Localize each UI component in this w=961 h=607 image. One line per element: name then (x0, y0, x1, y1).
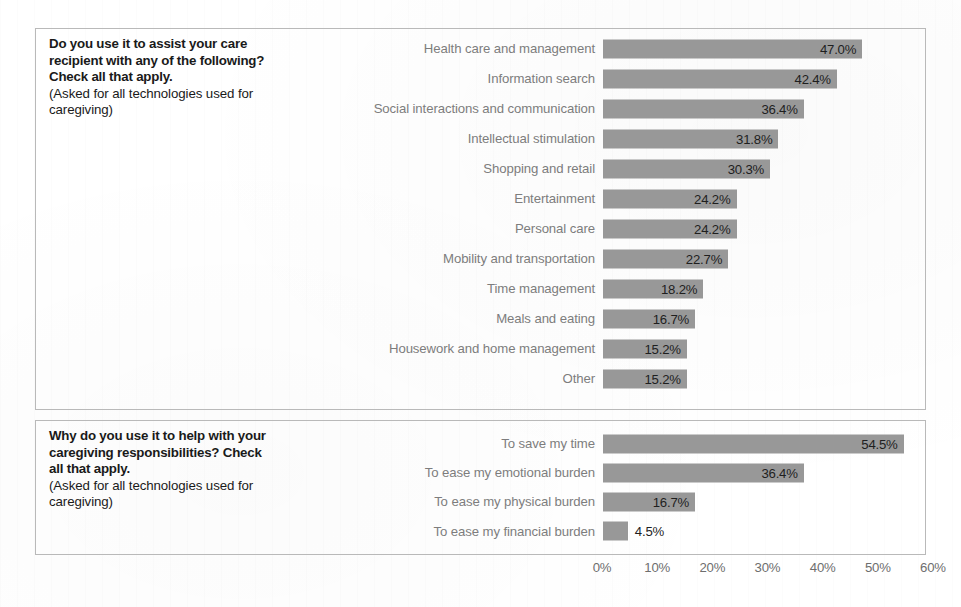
bar (603, 434, 904, 453)
bar-track: 36.4% (603, 458, 925, 487)
bar-track: 47.0% (603, 34, 925, 64)
bar-track: 36.4% (603, 94, 925, 124)
category-label: Intellectual stimulation (275, 124, 595, 154)
category-label: To ease my physical burden (275, 487, 595, 516)
category-label: Meals and eating (275, 304, 595, 334)
bar-value-label: 4.5% (635, 524, 664, 539)
reasons-bar-chart: To save my time54.5%To ease my emotional… (36, 421, 925, 554)
bar-value-label: 24.2% (694, 192, 730, 207)
category-label: To ease my emotional burden (275, 458, 595, 487)
x-axis-tick-label: 20% (699, 560, 725, 575)
x-axis-tick-label: 30% (755, 560, 781, 575)
bar-value-label: 24.2% (694, 222, 730, 237)
bar-value-label: 54.5% (861, 436, 897, 451)
category-label: To save my time (275, 429, 595, 458)
bar-track: 42.4% (603, 64, 925, 94)
bar-track: 4.5% (603, 517, 925, 546)
category-label: Mobility and transportation (275, 244, 595, 274)
category-label: Time management (275, 274, 595, 304)
bar-track: 24.2% (603, 214, 925, 244)
bar-track: 30.3% (603, 154, 925, 184)
category-label: Social interactions and communication (275, 94, 595, 124)
category-label: Housework and home management (275, 334, 595, 364)
bar-row: Health care and management47.0% (36, 34, 925, 64)
bar-value-label: 36.4% (761, 102, 797, 117)
bar-track: 16.7% (603, 487, 925, 516)
bar-value-label: 36.4% (761, 465, 797, 480)
x-axis-tick-label: 60% (920, 560, 946, 575)
category-label: Personal care (275, 214, 595, 244)
panel-usage: Do you use it to assist your care recipi… (35, 28, 926, 410)
x-axis-tick-label: 50% (865, 560, 891, 575)
bar-row: Meals and eating16.7% (36, 304, 925, 334)
category-label: Shopping and retail (275, 154, 595, 184)
category-label: Entertainment (275, 184, 595, 214)
bar-row: Entertainment24.2% (36, 184, 925, 214)
bar-row: Social interactions and communication36.… (36, 94, 925, 124)
bar-value-label: 15.2% (644, 372, 680, 387)
bar-value-label: 15.2% (644, 342, 680, 357)
bar-track: 31.8% (603, 124, 925, 154)
bar-track: 18.2% (603, 274, 925, 304)
bar-row: To save my time54.5% (36, 429, 925, 458)
x-axis-tick-label: 0% (593, 560, 612, 575)
survey-figure: Do you use it to assist your care recipi… (0, 0, 961, 607)
bar-row: Housework and home management15.2% (36, 334, 925, 364)
bar-track: 16.7% (603, 304, 925, 334)
bar-track: 54.5% (603, 429, 925, 458)
bar-track: 15.2% (603, 364, 925, 394)
x-axis: 0%10%20%30%40%50%60% (35, 556, 926, 582)
usage-bar-chart: Health care and management47.0%Informati… (36, 29, 925, 409)
bar-value-label: 31.8% (736, 132, 772, 147)
panel-reasons: Why do you use it to help with your care… (35, 420, 926, 555)
bar-value-label: 42.4% (795, 72, 831, 87)
bar (603, 522, 628, 541)
bar-track: 22.7% (603, 244, 925, 274)
bar-row: To ease my physical burden16.7% (36, 487, 925, 516)
bar-value-label: 30.3% (728, 162, 764, 177)
bar-row: Shopping and retail30.3% (36, 154, 925, 184)
bar-row: Personal care24.2% (36, 214, 925, 244)
x-axis-tick-label: 40% (810, 560, 836, 575)
bar-value-label: 47.0% (820, 42, 856, 57)
x-axis-tick-label: 10% (644, 560, 670, 575)
bar-row: To ease my financial burden4.5% (36, 517, 925, 546)
bar-value-label: 18.2% (661, 282, 697, 297)
category-label: Information search (275, 64, 595, 94)
bar-row: Information search42.4% (36, 64, 925, 94)
bar-track: 15.2% (603, 334, 925, 364)
category-label: Health care and management (275, 34, 595, 64)
bar-row: Intellectual stimulation31.8% (36, 124, 925, 154)
bar-row: Other15.2% (36, 364, 925, 394)
bar-value-label: 16.7% (653, 312, 689, 327)
category-label: To ease my financial burden (275, 517, 595, 546)
bar-value-label: 22.7% (686, 252, 722, 267)
category-label: Other (275, 364, 595, 394)
bar-value-label: 16.7% (653, 494, 689, 509)
bar-row: Time management18.2% (36, 274, 925, 304)
bar-row: To ease my emotional burden36.4% (36, 458, 925, 487)
bar-track: 24.2% (603, 184, 925, 214)
bar-row: Mobility and transportation22.7% (36, 244, 925, 274)
